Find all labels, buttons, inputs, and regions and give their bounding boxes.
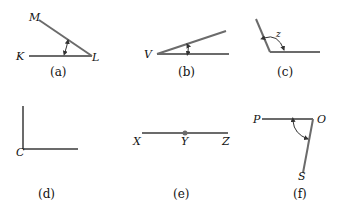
point-label-x: X	[132, 135, 142, 148]
point-label-l: L	[91, 51, 99, 64]
caption-a: (a)	[50, 65, 67, 79]
angle-figure: M K L (a) V (b) z (c) C (d)	[0, 0, 342, 212]
point-label-o: O	[317, 113, 326, 126]
caption-c: (c)	[277, 65, 293, 79]
point-label-k: K	[15, 50, 25, 63]
angle-variable-z: z	[275, 29, 281, 39]
angle-arc-f	[293, 121, 308, 139]
caption-d: (d)	[38, 187, 55, 201]
point-label-v: V	[144, 48, 153, 61]
point-label-c: C	[16, 146, 25, 159]
angle-arc-a	[65, 40, 68, 52]
caption-b: (b)	[178, 65, 195, 79]
point-label-s: S	[298, 170, 306, 183]
panel-d: C (d)	[16, 106, 78, 201]
caption-f: (f)	[293, 187, 307, 201]
ray-b-top	[157, 31, 226, 54]
caption-e: (e)	[173, 187, 189, 201]
ray-os	[303, 119, 313, 173]
point-label-z: Z	[221, 135, 230, 148]
angle-arc-b	[187, 44, 188, 52]
point-label-m: M	[28, 11, 41, 24]
panel-c: z (c)	[256, 19, 320, 79]
ray-c-slanted	[256, 19, 270, 52]
panel-a: M K L (a)	[15, 11, 99, 79]
figure-canvas: M K L (a) V (b) z (c) C (d)	[0, 0, 342, 212]
point-label-y: Y	[181, 135, 190, 148]
point-label-p: P	[252, 113, 261, 126]
panel-f: P O S (f)	[252, 113, 326, 201]
panel-e: X Y Z (e)	[132, 131, 230, 202]
panel-b: V (b)	[144, 31, 229, 79]
